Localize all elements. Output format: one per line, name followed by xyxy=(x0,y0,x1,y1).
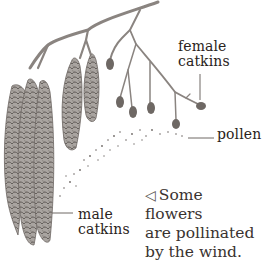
label-male-catkins: male catkins xyxy=(78,207,130,237)
label-female-catkins: female catkins xyxy=(178,39,248,69)
label-pollen: pollen xyxy=(217,127,261,142)
left-triangle-icon: ◁ xyxy=(145,187,156,203)
caption-line2: are pollinated xyxy=(145,224,262,243)
label-female-line2: catkins xyxy=(178,54,248,69)
figure-caption: ◁Some flowers are pollinated by the wind… xyxy=(145,186,262,262)
label-male-line1: male xyxy=(78,207,130,222)
caption-line3: by the wind. xyxy=(145,243,262,262)
label-female-line1: female xyxy=(178,39,248,54)
branch xyxy=(30,2,198,120)
label-male-line2: catkins xyxy=(78,222,130,237)
